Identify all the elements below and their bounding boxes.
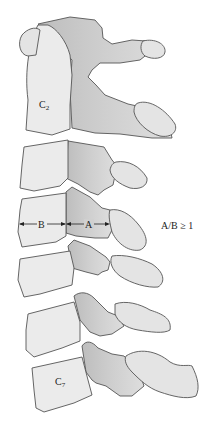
vertebra-c2: C2 <box>20 17 176 138</box>
c3-body <box>20 140 68 191</box>
c4-posterior-arch <box>66 187 112 238</box>
c4-facet <box>109 210 146 251</box>
vertebra-c4: B A <box>18 187 146 250</box>
c6-body <box>26 302 80 357</box>
c6-facet <box>115 302 170 332</box>
ratio-label: A/B ≥ 1 <box>161 220 193 231</box>
c2-facet-upper <box>141 40 165 58</box>
c3-posterior-arch <box>66 141 117 195</box>
vertebra-c7: C7 <box>32 342 198 412</box>
c2-dens <box>20 28 40 56</box>
vertebra-c3 <box>20 140 147 195</box>
c3-facet <box>110 162 147 189</box>
c5-body <box>18 251 74 297</box>
c5-posterior-arch <box>68 240 110 275</box>
c5-facet <box>111 255 163 287</box>
cervical-spine-diagram: C2 B A A/B ≥ 1 <box>0 0 211 423</box>
a-label: A <box>85 219 93 230</box>
vertebra-c6 <box>26 293 170 357</box>
b-label: B <box>38 219 45 230</box>
